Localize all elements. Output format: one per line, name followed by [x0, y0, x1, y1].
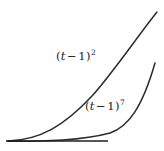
quadratic-constant: 1 — [78, 49, 86, 63]
curve-label-septic: (t−1)7 — [85, 101, 125, 113]
math-figure: (t−1)2 (t−1)7 — [0, 0, 164, 151]
curve-label-quadratic: (t−1)2 — [56, 51, 96, 63]
curve-quadratic — [8, 12, 157, 141]
curve-septic — [8, 63, 155, 141]
septic-variable: t — [90, 99, 95, 113]
quadratic-variable: t — [61, 49, 66, 63]
plot-canvas — [0, 0, 164, 151]
quadratic-operator: − — [66, 49, 79, 63]
septic-exponent: 7 — [120, 98, 125, 107]
septic-constant: 1 — [107, 99, 115, 113]
quadratic-exponent: 2 — [91, 48, 96, 57]
septic-operator: − — [95, 99, 108, 113]
septic-close-paren: ) — [115, 99, 120, 113]
quadratic-close-paren: ) — [86, 49, 91, 63]
